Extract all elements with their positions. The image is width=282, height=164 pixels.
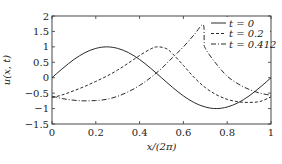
x-tick-label: 0.8 (219, 127, 235, 138)
legend: t = 0t = 0.2t = 0.412 (209, 17, 276, 52)
x-tick-label: 0.4 (132, 127, 148, 138)
x-tick-label: 1 (268, 127, 274, 138)
x-tick-label: 0.6 (175, 127, 191, 138)
y-tick-label: 2 (43, 11, 49, 22)
legend-label: t = 0.2 (229, 28, 264, 39)
y-tick-label: 1 (43, 41, 49, 52)
legend-label: t = 0.412 (229, 39, 276, 50)
y-tick-label: 0.5 (33, 57, 49, 68)
y-tick-label: −0.5 (25, 88, 49, 99)
x-axis-label: x/(2π) (147, 141, 177, 152)
y-tick-label: 0 (43, 72, 49, 83)
y-axis-label: u(x, t) (1, 55, 12, 85)
y-tick-label: 1.5 (33, 26, 49, 37)
line-chart: 00.20.40.60.81 −1.5−1−0.500.511.52 t = 0… (0, 0, 282, 164)
series-line-0 (52, 47, 271, 109)
y-tick-label: −1.5 (25, 119, 49, 130)
x-tick-label: 0.2 (88, 127, 104, 138)
x-tick-label: 0 (49, 127, 55, 138)
series-line-1 (52, 47, 271, 103)
legend-label: t = 0 (229, 18, 255, 29)
y-tick-label: −1 (34, 103, 49, 114)
